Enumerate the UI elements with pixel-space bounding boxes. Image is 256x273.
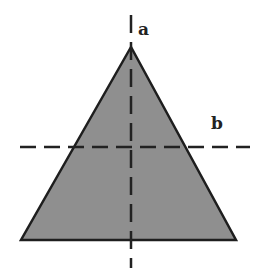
axis-b-label: b	[211, 115, 223, 132]
triangle	[21, 47, 236, 240]
triangle-diagram	[0, 0, 256, 273]
axis-a-label: a	[138, 21, 149, 38]
